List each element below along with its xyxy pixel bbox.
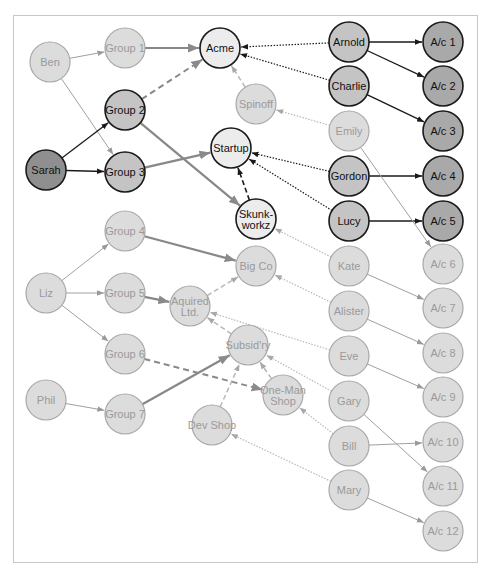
node-skunkworkz[interactable]: Skunk-workz bbox=[236, 199, 276, 239]
node-group2[interactable]: Group 2 bbox=[105, 90, 145, 130]
node-label: A/c 8 bbox=[430, 347, 455, 359]
node-ac12[interactable]: A/c 12 bbox=[423, 511, 463, 551]
node-ac3[interactable]: A/c 3 bbox=[423, 111, 463, 151]
node-group7[interactable]: Group 7 bbox=[105, 394, 145, 434]
node-ac9[interactable]: A/c 9 bbox=[423, 377, 463, 417]
node-label: A/c 4 bbox=[430, 170, 455, 182]
edge-skunkworkz-to-startup bbox=[238, 168, 249, 200]
node-group6[interactable]: Group 6 bbox=[105, 334, 145, 374]
node-label: A/c 10 bbox=[427, 436, 458, 448]
node-label: workz bbox=[241, 219, 271, 231]
node-phil[interactable]: Phil bbox=[26, 380, 66, 420]
node-label: A/c 3 bbox=[430, 125, 455, 137]
node-label: A/c 9 bbox=[430, 391, 455, 403]
node-arnold[interactable]: Arnold bbox=[329, 22, 369, 62]
node-ac4[interactable]: A/c 4 bbox=[423, 156, 463, 196]
edge-sarah-to-group2 bbox=[62, 123, 108, 158]
node-ac11[interactable]: A/c 11 bbox=[423, 466, 463, 506]
node-label: Gary bbox=[337, 395, 361, 407]
node-charlie[interactable]: Charlie bbox=[329, 66, 369, 106]
node-label: A/c 7 bbox=[430, 302, 455, 314]
node-ac7[interactable]: A/c 7 bbox=[423, 288, 463, 328]
node-label: Liz bbox=[39, 287, 53, 299]
node-kate[interactable]: Kate bbox=[329, 246, 369, 286]
node-aquired[interactable]: AquiredLtd. bbox=[170, 286, 210, 326]
edge-eve-to-ac9 bbox=[367, 364, 424, 389]
edge-group5-to-aquired bbox=[145, 297, 170, 302]
node-ac2[interactable]: A/c 2 bbox=[423, 66, 463, 106]
node-label: Group 5 bbox=[105, 287, 145, 299]
node-emily[interactable]: Emily bbox=[329, 111, 369, 151]
edge-ben-to-group1 bbox=[70, 52, 105, 58]
node-label: Arnold bbox=[333, 36, 365, 48]
edge-mary-to-devshop bbox=[231, 434, 331, 481]
node-label: Group 4 bbox=[105, 225, 145, 237]
node-label: Ltd. bbox=[181, 306, 199, 318]
edge-charlie-to-acme bbox=[240, 54, 330, 80]
node-group5[interactable]: Group 5 bbox=[105, 273, 145, 313]
node-subsidry[interactable]: Subsid'ry bbox=[226, 325, 271, 365]
node-ac8[interactable]: A/c 8 bbox=[423, 333, 463, 373]
edge-subsidry-to-aquired bbox=[207, 318, 231, 334]
nodes-layer: BenGroup 1AcmeGroup 2SarahGroup 3Spinoff… bbox=[26, 22, 463, 551]
node-label: Acme bbox=[206, 42, 234, 54]
node-label: Group 2 bbox=[105, 104, 145, 116]
node-onemanshop[interactable]: One-ManShop bbox=[260, 375, 306, 415]
node-devshop[interactable]: Dev Shop bbox=[188, 405, 236, 445]
node-gordon[interactable]: Gordon bbox=[329, 156, 369, 196]
node-bigco[interactable]: Big Co bbox=[236, 246, 276, 286]
edge-aquired-to-bigco bbox=[207, 277, 238, 296]
node-label: A/c 6 bbox=[430, 258, 455, 270]
node-liz[interactable]: Liz bbox=[26, 273, 66, 313]
node-group4[interactable]: Group 4 bbox=[105, 211, 145, 251]
node-group1[interactable]: Group 1 bbox=[105, 28, 145, 68]
node-gary[interactable]: Gary bbox=[329, 381, 369, 421]
node-label: Phil bbox=[37, 394, 55, 406]
edge-group4-to-bigco bbox=[144, 236, 235, 260]
node-ac10[interactable]: A/c 10 bbox=[423, 422, 463, 462]
node-ac5[interactable]: A/c 5 bbox=[423, 201, 463, 241]
edge-kate-to-skunkworkz bbox=[275, 229, 332, 258]
node-label: Alister bbox=[334, 305, 365, 317]
node-label: Startup bbox=[213, 142, 248, 154]
node-spinoff[interactable]: Spinoff bbox=[236, 84, 276, 124]
edge-sarah-to-group3 bbox=[66, 171, 104, 172]
node-label: Group 7 bbox=[105, 408, 145, 420]
node-sarah[interactable]: Sarah bbox=[26, 150, 66, 190]
node-group3[interactable]: Group 3 bbox=[105, 152, 145, 192]
node-label: Group 3 bbox=[105, 166, 145, 178]
node-startup[interactable]: Startup bbox=[211, 128, 251, 168]
node-label: Emily bbox=[336, 125, 363, 137]
node-label: A/c 12 bbox=[427, 525, 458, 537]
node-ac1[interactable]: A/c 1 bbox=[423, 22, 463, 62]
node-mary[interactable]: Mary bbox=[329, 470, 369, 510]
node-label: Spinoff bbox=[239, 98, 274, 110]
node-lucy[interactable]: Lucy bbox=[329, 201, 369, 241]
node-label: Group 1 bbox=[105, 42, 145, 54]
edge-emily-to-spinoff bbox=[276, 110, 330, 126]
edge-alister-to-ac8 bbox=[367, 319, 424, 344]
node-label: A/c 5 bbox=[430, 215, 455, 227]
edge-kate-to-ac7 bbox=[367, 274, 424, 299]
node-bill[interactable]: Bill bbox=[329, 426, 369, 466]
edge-group2-to-acme bbox=[142, 60, 203, 100]
node-label: Group 6 bbox=[105, 348, 145, 360]
edge-gordon-to-startup bbox=[251, 153, 329, 172]
node-label: Bill bbox=[342, 440, 357, 452]
edge-emily-to-ac6 bbox=[361, 147, 431, 247]
node-eve[interactable]: Eve bbox=[329, 336, 369, 376]
node-label: Lucy bbox=[337, 215, 361, 227]
node-ac6[interactable]: A/c 6 bbox=[423, 244, 463, 284]
edge-arnold-to-acme bbox=[241, 43, 329, 47]
edge-mary-to-ac12 bbox=[367, 498, 424, 523]
node-label: Eve bbox=[340, 350, 359, 362]
node-label: Charlie bbox=[332, 80, 367, 92]
node-label: Subsid'ry bbox=[226, 339, 271, 351]
node-alister[interactable]: Alister bbox=[329, 291, 369, 331]
node-label: Kate bbox=[338, 260, 361, 272]
edge-liz-to-group4 bbox=[62, 244, 109, 281]
node-ben[interactable]: Ben bbox=[30, 42, 70, 82]
node-label: Sarah bbox=[31, 164, 60, 176]
node-acme[interactable]: Acme bbox=[200, 28, 240, 68]
edge-alister-to-bigco bbox=[275, 275, 331, 302]
